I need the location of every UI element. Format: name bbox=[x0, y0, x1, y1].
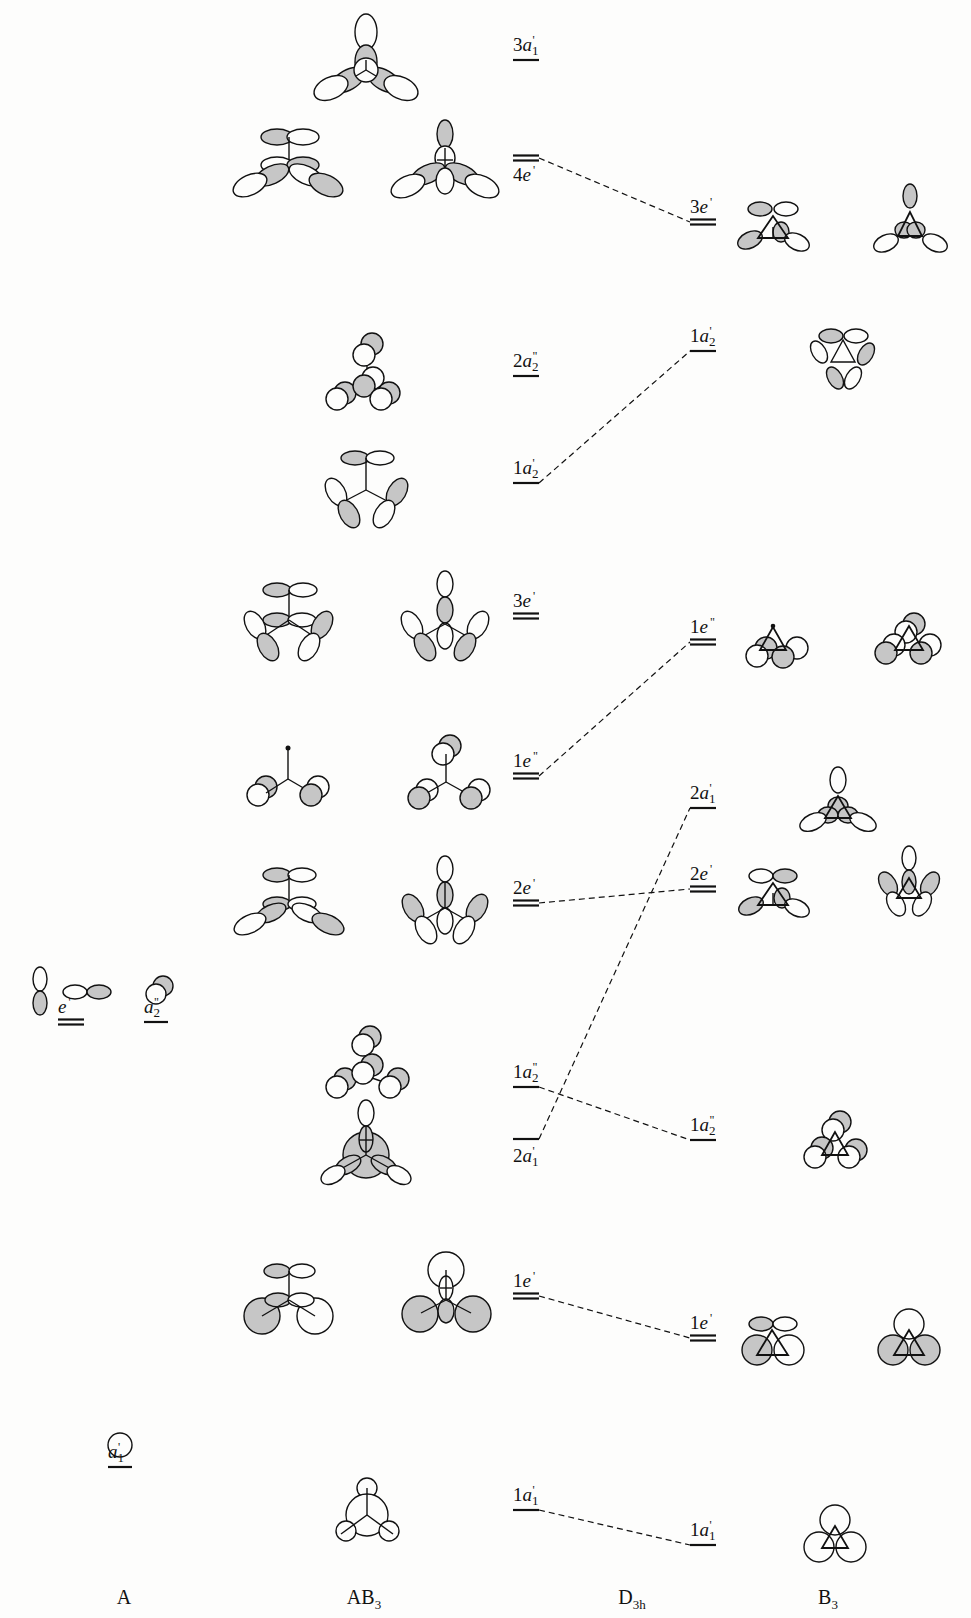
orbital-ab3-1a2p bbox=[321, 451, 413, 531]
orbital-ab3-3ep-a bbox=[240, 583, 338, 664]
orbital-ab3-1epp-b bbox=[408, 735, 490, 809]
column-label-A: A bbox=[117, 1586, 131, 1609]
energy-level-bars bbox=[58, 60, 716, 1545]
level-label-AB3-2a1p: 2a1' bbox=[513, 1145, 535, 1168]
orbital-b3-1ep-b bbox=[878, 1309, 940, 1365]
level-label-B3-1a2pp: 1a2" bbox=[690, 1114, 714, 1137]
mo-correlation-diagram: .o { fill: #fdfdfc; stroke: #111; stroke… bbox=[0, 0, 971, 1618]
level-label-A-a1p: a1' bbox=[108, 1441, 120, 1464]
correlation-line-AB3-1ep-to-B3-1ep bbox=[539, 1296, 690, 1338]
orbital-b3-2ep-a bbox=[736, 869, 812, 921]
orbital-b3-2a1p bbox=[797, 767, 879, 835]
orbital-b3-1a2pp bbox=[804, 1111, 867, 1168]
level-label-AB3-1ep: 1e' bbox=[513, 1270, 535, 1290]
level-label-AB3-1epp: 1e" bbox=[513, 750, 538, 770]
energy-level-B3-2ep bbox=[690, 887, 716, 892]
level-label-B3-3ep: 3e' bbox=[690, 196, 712, 216]
level-label-A-ep: e' bbox=[58, 996, 71, 1016]
energy-level-A-ep bbox=[58, 1020, 84, 1025]
correlation-line-AB3-1a1p-to-B3-1a1p bbox=[539, 1510, 690, 1545]
energy-level-AB3-1ep bbox=[513, 1294, 539, 1299]
orbital-ab3-2a2pp bbox=[326, 333, 400, 410]
column-label-B3: B3 bbox=[818, 1586, 838, 1613]
level-label-B3-1epp: 1e" bbox=[690, 616, 715, 636]
orbital-b3-1epp-b bbox=[875, 613, 941, 664]
energy-level-B3-1epp bbox=[690, 640, 716, 645]
energy-level-AB3-2ep bbox=[513, 901, 539, 906]
correlation-line-AB3-1a2p-to-B3-1a2p bbox=[539, 351, 690, 483]
orbital-ab3-1ep-b bbox=[402, 1252, 491, 1332]
energy-level-B3-3ep bbox=[690, 220, 716, 225]
level-label-B3-1a1p: 1a1' bbox=[690, 1519, 712, 1542]
orbital-b3-1a2p bbox=[807, 329, 878, 392]
correlation-line-AB3-1epp-to-B3-1epp bbox=[539, 642, 690, 776]
orbital-ab3-1a2pp bbox=[326, 1026, 409, 1098]
level-label-AB3-4ep: 4e' bbox=[513, 164, 535, 184]
level-label-A-a2pp: a2" bbox=[144, 996, 159, 1019]
orbital-b3-1epp-a bbox=[746, 624, 808, 668]
level-label-AB3-2ep: 2e' bbox=[513, 877, 535, 897]
orbital-ab3-2ep-b bbox=[398, 856, 493, 947]
level-label-AB3-3ep: 3e' bbox=[513, 590, 535, 610]
orbital-ab3-2a1p bbox=[318, 1100, 415, 1188]
energy-level-B3-1ep bbox=[690, 1336, 716, 1341]
orbital-b3-3ep-b bbox=[871, 184, 950, 256]
energy-level-AB3-4ep bbox=[513, 156, 539, 161]
correlation-line-AB3-4ep-to-B3-3ep bbox=[539, 158, 690, 222]
level-label-B3-1a2p: 1a2' bbox=[690, 325, 712, 348]
orbital-ab3-1ep-a bbox=[244, 1264, 333, 1334]
orbital-ab3-1a1p bbox=[336, 1478, 399, 1541]
orbital-ab3-4ep-a bbox=[229, 129, 346, 202]
orbital-ab3-3a1p bbox=[310, 14, 422, 106]
level-label-AB3-1a1p: 1a1' bbox=[513, 1484, 535, 1507]
column-label-D3h: D3h bbox=[618, 1586, 645, 1613]
orbital-ab3-1epp-a bbox=[247, 746, 329, 807]
orbital-ab3-3ep-b bbox=[397, 571, 494, 664]
energy-level-AB3-1epp bbox=[513, 774, 539, 779]
orbital-b3-1ep-a bbox=[742, 1317, 804, 1365]
level-label-AB3-2a2pp: 2a2" bbox=[513, 350, 537, 373]
orbital-b3-1a1p bbox=[804, 1505, 866, 1562]
orbital-b3-3ep-a bbox=[735, 202, 812, 255]
energy-level-AB3-3ep bbox=[513, 614, 539, 619]
level-label-B3-2ep: 2e' bbox=[690, 863, 712, 883]
correlation-lines bbox=[539, 158, 690, 1545]
orbital-b3-2ep-b bbox=[875, 846, 944, 919]
correlation-line-AB3-2ep-to-B3-2ep bbox=[539, 889, 690, 903]
level-label-AB3-3a1p: 3a1' bbox=[513, 34, 535, 57]
orbital-a-px-py bbox=[33, 967, 111, 1015]
level-label-AB3-1a2pp: 1a2" bbox=[513, 1061, 537, 1084]
correlation-line-AB3-1a2pp-to-B3-1a2pp bbox=[539, 1087, 690, 1140]
level-label-AB3-1a2p: 1a2' bbox=[513, 457, 535, 480]
level-label-B3-1ep: 1e' bbox=[690, 1312, 712, 1332]
level-label-B3-2a1p: 2a1' bbox=[690, 782, 712, 805]
orbital-ab3-4ep-b bbox=[387, 120, 502, 203]
orbital-ab3-2ep-a bbox=[231, 868, 347, 939]
column-label-AB3: AB3 bbox=[347, 1586, 381, 1613]
correlation-line-AB3-2a1p-to-B3-2a1p bbox=[539, 808, 690, 1139]
